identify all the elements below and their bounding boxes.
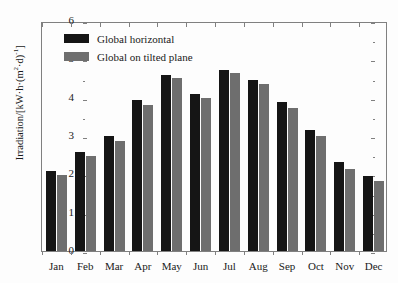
y-axis-title-main: Irradiation/[kW·h·(m — [14, 70, 25, 160]
legend-swatch-icon-global-horizontal — [64, 34, 89, 43]
x-tick-mark — [186, 251, 187, 255]
bar-mar-series-0 — [104, 136, 114, 251]
x-tick-mark-top — [359, 23, 360, 27]
x-tick-mark — [273, 251, 274, 255]
x-tick-mark-top — [129, 23, 130, 27]
bar-feb-series-1 — [86, 156, 96, 251]
bar-oct-series-1 — [316, 136, 326, 251]
x-tick-mark — [215, 251, 216, 255]
bar-jul-series-0 — [219, 70, 229, 251]
bar-group-jul — [219, 23, 240, 251]
bar-jun-series-1 — [201, 98, 211, 251]
bar-group-oct — [305, 23, 326, 251]
bar-nov-series-1 — [345, 169, 355, 251]
x-tick-mark-top — [42, 23, 43, 27]
x-tick-mark-top — [215, 23, 216, 27]
bar-group-aug — [248, 23, 269, 251]
bar-aug-series-1 — [259, 84, 269, 251]
x-tick-mark — [302, 251, 303, 255]
bar-group-jun — [190, 23, 211, 251]
bar-may-series-1 — [172, 78, 182, 251]
y-tick-label: 2 — [69, 168, 75, 179]
y-tick-label: 4 — [69, 92, 75, 103]
y-axis-title: Irradiation/[kW·h·(m2·d)-1] — [11, 3, 25, 203]
bar-group-dec — [363, 23, 384, 251]
x-tick-mark — [157, 251, 158, 255]
y-tick-mark — [83, 253, 87, 254]
x-tick-mark — [359, 251, 360, 255]
x-tick-mark — [100, 251, 101, 255]
x-axis-label-dec: Dec — [354, 260, 394, 272]
legend-entry-global-tilted: Global on tilted plane — [64, 49, 193, 64]
legend-entry-global-horizontal: Global horizontal — [64, 31, 193, 46]
x-tick-mark-top — [186, 23, 187, 27]
legend-label-global-tilted: Global on tilted plane — [97, 51, 193, 63]
chart-legend: Global horizontal Global on tilted plane — [64, 31, 193, 67]
bar-feb-series-0 — [75, 152, 85, 251]
y-tick-mark-right — [371, 253, 375, 254]
x-tick-mark-top — [330, 23, 331, 27]
legend-swatch-icon-global-tilted — [64, 52, 89, 61]
bar-oct-series-0 — [305, 130, 315, 251]
bar-sep-series-1 — [288, 108, 298, 251]
x-tick-mark — [42, 251, 43, 255]
bar-mar-series-1 — [115, 141, 125, 251]
bar-apr-series-1 — [143, 105, 153, 251]
bar-apr-series-0 — [132, 100, 142, 251]
x-tick-mark-top — [100, 23, 101, 27]
x-tick-mark — [330, 251, 331, 255]
x-tick-mark-top — [273, 23, 274, 27]
bar-aug-series-0 — [248, 80, 258, 251]
x-tick-mark — [129, 251, 130, 255]
bar-jun-series-0 — [190, 94, 200, 251]
bar-dec-series-1 — [374, 181, 384, 251]
y-axis-title-mid: ·d) — [14, 55, 25, 67]
bar-group-nov — [334, 23, 355, 251]
x-tick-mark-top — [157, 23, 158, 27]
x-tick-mark — [71, 251, 72, 255]
x-tick-mark-top — [244, 23, 245, 27]
x-tick-mark — [244, 251, 245, 255]
x-tick-mark-top — [302, 23, 303, 27]
bar-group-sep — [277, 23, 298, 251]
bar-jan-series-1 — [57, 175, 67, 251]
irradiation-bar-chart: Irradiation/[kW·h·(m2·d)-1] 0123456 JanF… — [0, 0, 398, 283]
legend-label-global-horizontal: Global horizontal — [97, 33, 174, 45]
bar-jan-series-0 — [46, 171, 56, 252]
bar-nov-series-0 — [334, 162, 344, 251]
bar-jul-series-1 — [230, 73, 240, 251]
y-axis-title-sup-area: 2 — [12, 67, 20, 71]
y-axis-title-sup-inverse: -1 — [12, 49, 20, 55]
bar-sep-series-0 — [277, 102, 287, 251]
bar-dec-series-0 — [363, 176, 373, 251]
y-tick-label: 1 — [69, 207, 75, 218]
x-tick-mark-top — [71, 23, 72, 27]
y-tick-label: 3 — [69, 130, 75, 141]
bar-may-series-0 — [161, 75, 171, 251]
plot-area: 0123456 JanFebMarAprMayJunJulAugSepOctNo… — [41, 22, 387, 252]
y-axis-title-end: ] — [14, 45, 25, 49]
